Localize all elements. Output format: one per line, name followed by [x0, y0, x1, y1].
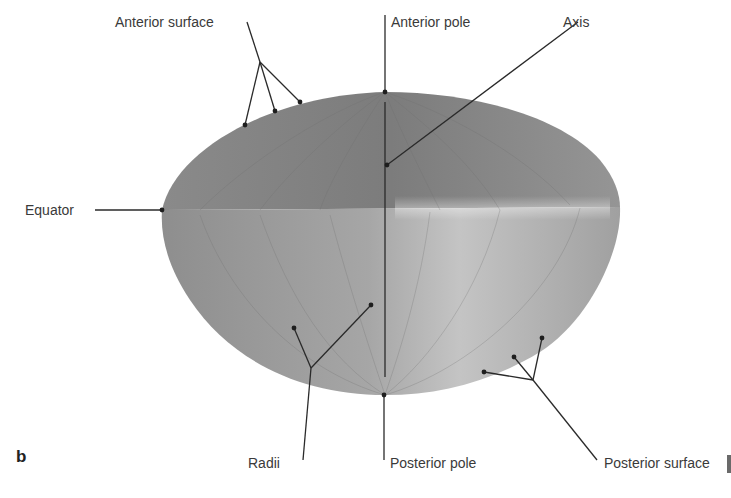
label-radii: Radii — [248, 455, 280, 471]
label-axis: Axis — [563, 14, 589, 30]
label-posterior-surface: Posterior surface — [604, 455, 710, 471]
label-anterior-surface: Anterior surface — [115, 14, 214, 30]
label-posterior-pole: Posterior pole — [390, 455, 476, 471]
label-equator: Equator — [25, 202, 74, 218]
panel-letter: b — [16, 447, 26, 467]
leader-lines — [0, 0, 731, 498]
label-anterior-pole: Anterior pole — [391, 14, 470, 30]
lens-diagram: Anterior surface Anterior pole Axis Equa… — [0, 0, 731, 498]
edge-artifact — [727, 455, 731, 473]
